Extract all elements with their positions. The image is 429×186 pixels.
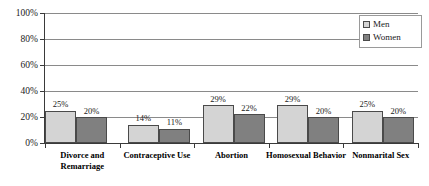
- y-axis-line: [44, 13, 45, 144]
- y-axis-tick-mark: [40, 13, 44, 14]
- y-axis-tick-label: 40%: [0, 87, 38, 97]
- bar-women: [234, 114, 265, 143]
- square-swatch-light-icon: [363, 21, 370, 28]
- bar-value-label: 11%: [155, 118, 194, 127]
- gridline: [45, 13, 418, 14]
- x-axis-line: [44, 143, 419, 144]
- gridline: [45, 65, 418, 66]
- bar-men: [128, 125, 159, 143]
- grouped-bar-chart: 0%20%40%60%80%100% 25%20%14%11%29%22%29%…: [0, 0, 429, 186]
- bar-value-label: 29%: [273, 95, 312, 104]
- bar-women: [159, 129, 190, 143]
- bar-women: [76, 117, 107, 143]
- chart-legend: Men Women: [359, 15, 422, 48]
- y-axis-tick-label: 80%: [0, 35, 38, 45]
- category-label: Divorce and Remarriage: [41, 150, 124, 172]
- bar-value-label: 20%: [379, 107, 418, 116]
- legend-label-men: Men: [373, 20, 390, 29]
- x-axis-tick-mark: [418, 144, 419, 148]
- y-axis-tick-label: 100%: [0, 9, 38, 19]
- bar-value-label: 20%: [304, 107, 343, 116]
- y-axis-tick-label: 20%: [0, 113, 38, 123]
- x-axis-tick-mark: [269, 144, 270, 148]
- x-axis-tick-mark: [194, 144, 195, 148]
- y-axis-tick-mark: [40, 117, 44, 118]
- x-axis-tick-mark: [343, 144, 344, 148]
- y-axis-tick-mark: [40, 39, 44, 40]
- legend-item-men: Men: [363, 18, 418, 31]
- y-axis-tick-label: 0%: [0, 139, 38, 149]
- x-axis-tick-mark: [120, 144, 121, 148]
- legend-item-women: Women: [363, 31, 418, 44]
- legend-label-women: Women: [373, 33, 401, 42]
- square-swatch-dark-icon: [363, 34, 370, 41]
- bar-value-label: 29%: [199, 95, 238, 104]
- gridline: [45, 91, 418, 92]
- bar-women: [308, 117, 339, 143]
- x-axis-tick-mark: [45, 144, 46, 148]
- bar-value-label: 20%: [72, 107, 111, 116]
- y-axis-tick-mark: [40, 65, 44, 66]
- y-axis-tick-mark: [40, 91, 44, 92]
- bar-women: [383, 117, 414, 143]
- category-label: Nonmarital Sex: [339, 150, 422, 161]
- category-label: Contraceptive Use: [116, 150, 199, 161]
- bar-value-label: 22%: [230, 104, 269, 113]
- bar-men: [352, 111, 383, 144]
- category-label: Abortion: [190, 150, 273, 161]
- bar-men: [45, 111, 76, 144]
- category-label: Homosexual Behavior: [265, 150, 348, 161]
- y-axis-tick-label: 60%: [0, 61, 38, 71]
